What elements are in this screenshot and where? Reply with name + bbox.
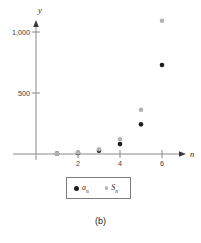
data-point-S_n [139, 107, 144, 112]
data-point-S_n [118, 137, 123, 142]
data-point-a_n [118, 142, 123, 147]
data-points [55, 18, 165, 155]
chart-legend: an Sn [66, 177, 131, 199]
y-tick-label: 1,000 [12, 28, 30, 37]
data-point-S_n [55, 151, 60, 156]
data-point-S_n [160, 18, 165, 23]
sn-marker-icon [105, 186, 109, 190]
scatter-plot: y n 2465001,000 [0, 0, 201, 243]
y-axis-label: y [37, 5, 42, 15]
legend-item-an: an [74, 184, 89, 192]
figure-caption: (b) [0, 216, 201, 226]
x-tick-label: 6 [160, 159, 164, 168]
data-point-S_n [97, 147, 102, 152]
legend-label-an: an [82, 184, 89, 192]
x-axis-arrow-icon [179, 151, 186, 157]
data-point-S_n [76, 150, 81, 155]
axis-ticks: 2465001,000 [12, 28, 164, 168]
legend-label-sn: Sn [111, 184, 118, 192]
data-point-a_n [160, 63, 165, 68]
x-tick-label: 2 [76, 159, 80, 168]
scatter-figure: y n 2465001,000 an Sn (b) [0, 0, 201, 243]
x-tick-label: 4 [118, 159, 122, 168]
x-axis-label: n [190, 149, 194, 159]
y-tick-label: 500 [18, 89, 30, 98]
y-axis-arrow-icon [33, 20, 39, 27]
an-marker-icon [74, 186, 79, 191]
data-point-a_n [139, 122, 144, 127]
legend-item-sn: Sn [105, 184, 118, 192]
